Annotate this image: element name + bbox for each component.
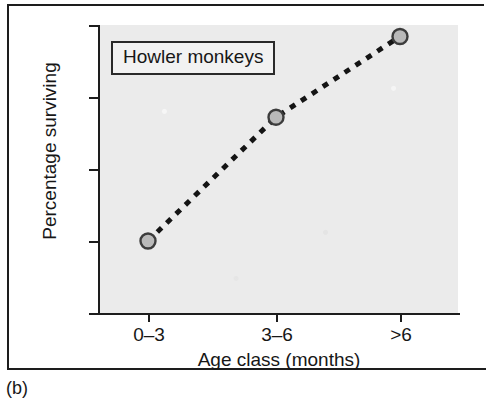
x-axis-line [98,313,460,315]
x-tick-0-3 [148,313,150,322]
y-axis-title: Percentage surviving [39,21,61,281]
y-axis-line [98,25,100,315]
y-tick-50 [89,169,98,171]
x-axis-title: Age class (months) [100,349,458,371]
x-tick-3-6 [276,313,278,322]
x-tick-gt6 [400,313,402,322]
figure-caption: (b) [6,378,28,399]
x-tick-label-3-6: 3–6 [232,325,322,344]
annotation-label-howler-monkeys: Howler monkeys [111,41,275,75]
x-tick-label-0-3: 0–3 [104,325,194,344]
y-tick-100 [89,25,98,27]
y-tick-25 [89,241,98,243]
x-tick-label-gt6: >6 [356,325,446,344]
y-tick-0 [89,313,98,315]
y-tick-75 [89,97,98,99]
